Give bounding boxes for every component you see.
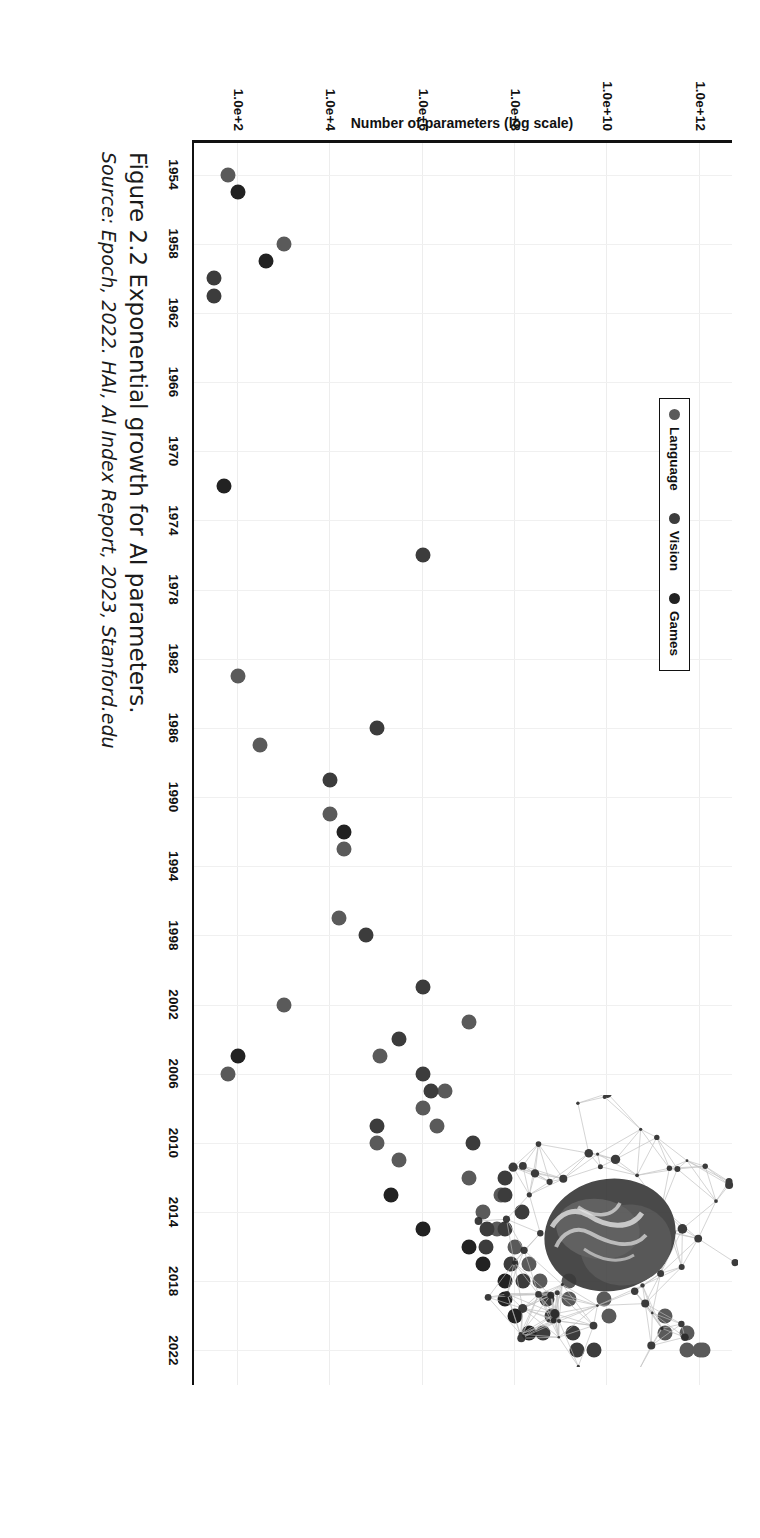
rotated-figure-stage: 1.0e+21.0e+41.0e+61.0e+81.0e+101.0e+12 1… <box>0 0 760 1538</box>
scatter-point <box>415 548 430 563</box>
gridline-vertical <box>192 175 732 176</box>
gridline-vertical <box>192 1005 732 1006</box>
x-tick-label: 2010 <box>166 1128 181 1158</box>
scatter-point <box>657 1326 672 1341</box>
x-tick-label: 2006 <box>166 1059 181 1089</box>
scatter-point <box>231 669 246 684</box>
gridline-horizontal <box>422 140 423 1385</box>
gridline-vertical <box>192 728 732 729</box>
y-tick-label: 1.0e+10 <box>600 81 615 131</box>
scatter-point <box>696 1343 711 1358</box>
x-tick-label: 1998 <box>166 920 181 950</box>
scatter-point <box>207 288 222 303</box>
x-tick-label: 1954 <box>166 159 181 189</box>
x-tick-label: 2018 <box>166 1266 181 1296</box>
scatter-point <box>369 720 384 735</box>
scatter-point <box>586 1343 601 1358</box>
x-tick-label: 1986 <box>166 713 181 743</box>
chart-plot: 1.0e+21.0e+41.0e+61.0e+81.0e+101.0e+12 1… <box>192 140 732 1385</box>
x-tick-label: 1978 <box>166 574 181 604</box>
x-tick-label: 1970 <box>166 436 181 466</box>
gridline-vertical <box>192 659 732 660</box>
gridline-vertical <box>192 313 732 314</box>
x-tick-label: 1966 <box>166 367 181 397</box>
scatter-point <box>516 1274 531 1289</box>
scatter-point <box>657 1308 672 1323</box>
x-tick-label: 1994 <box>166 851 181 881</box>
legend-marker-vision <box>669 513 680 524</box>
gridline-horizontal <box>606 140 607 1385</box>
gridline-vertical <box>192 1074 732 1075</box>
legend-label-language: Language <box>667 427 682 491</box>
gridline-horizontal <box>514 140 515 1385</box>
scatter-point <box>508 1308 523 1323</box>
scatter-point <box>253 738 268 753</box>
gridline-vertical <box>192 244 732 245</box>
scatter-point <box>369 1118 384 1133</box>
scatter-point <box>423 1084 438 1099</box>
scatter-point <box>415 1222 430 1237</box>
scatter-point <box>514 1205 529 1220</box>
scatter-point <box>359 928 374 943</box>
gridline-horizontal <box>699 140 700 1385</box>
legend-item-vision[interactable]: Vision <box>667 513 682 571</box>
scatter-point <box>391 1032 406 1047</box>
legend-item-language[interactable]: Language <box>667 409 682 491</box>
scatter-point <box>369 1135 384 1150</box>
legend-marker-games <box>669 593 680 604</box>
scatter-point <box>508 1239 523 1254</box>
scatter-point <box>231 184 246 199</box>
scatter-point <box>602 1308 617 1323</box>
x-tick-label: 2014 <box>166 1197 181 1227</box>
scatter-point <box>522 1326 537 1341</box>
gridline-vertical <box>192 1212 732 1213</box>
gridline-vertical <box>192 1281 732 1282</box>
scatter-point <box>217 478 232 493</box>
scatter-point <box>220 1066 235 1081</box>
caption-source: Source: Epoch, 2022. HAI, AI Index Repor… <box>96 152 121 1352</box>
scatter-point <box>277 997 292 1012</box>
y-tick-label: 1.0e+4 <box>323 89 338 131</box>
scatter-point <box>258 254 273 269</box>
scatter-point <box>497 1187 512 1202</box>
y-tick-label: 1.0e+2 <box>231 89 246 131</box>
scatter-point <box>497 1291 512 1306</box>
x-tick-label: 1990 <box>166 782 181 812</box>
y-axis-label: Number of parameters (log scale) <box>351 115 574 131</box>
scatter-point <box>461 1239 476 1254</box>
scatter-point <box>680 1326 695 1341</box>
x-tick-label: 1974 <box>166 505 181 535</box>
scatter-point <box>562 1291 577 1306</box>
scatter-point <box>570 1343 585 1358</box>
legend-label-vision: Vision <box>667 531 682 571</box>
gridline-vertical <box>192 520 732 521</box>
scatter-point <box>437 1084 452 1099</box>
scatter-point <box>596 1291 611 1306</box>
gridline-vertical <box>192 866 732 867</box>
scatter-point <box>497 1170 512 1185</box>
scatter-point <box>231 1049 246 1064</box>
scatter-point <box>323 807 338 822</box>
scatter-point <box>545 1308 560 1323</box>
scatter-point <box>475 1256 490 1271</box>
scatter-point <box>415 1066 430 1081</box>
figure-caption: Figure 2.2 Exponential growth for AI par… <box>96 152 152 1352</box>
x-axis-line <box>192 140 195 1385</box>
scatter-point <box>497 1222 512 1237</box>
x-tick-label: 2002 <box>166 989 181 1019</box>
scatter-point <box>323 772 338 787</box>
legend-marker-language <box>669 409 680 420</box>
gridline-vertical <box>192 1143 732 1144</box>
x-tick-label: 1982 <box>166 644 181 674</box>
scatter-point <box>480 1222 495 1237</box>
scatter-point <box>532 1274 547 1289</box>
legend-label-games: Games <box>667 611 682 656</box>
scatter-point <box>277 236 292 251</box>
scatter-point <box>503 1256 518 1271</box>
scatter-point <box>331 911 346 926</box>
scatter-point <box>207 271 222 286</box>
legend-item-games[interactable]: Games <box>667 593 682 656</box>
gridline-vertical <box>192 382 732 383</box>
scatter-point <box>415 980 430 995</box>
scatter-point <box>539 1291 554 1306</box>
